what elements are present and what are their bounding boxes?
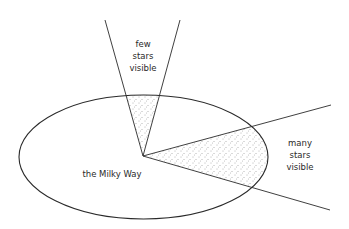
label-line: stars [280, 149, 320, 161]
label-line: visible [123, 62, 163, 74]
label-milky-way: the Milky Way [72, 168, 152, 180]
label-many-stars-visible: many stars visible [280, 137, 320, 173]
label-line: few [123, 38, 163, 50]
label-few-stars-visible: few stars visible [123, 38, 163, 74]
label-line: many [280, 137, 320, 149]
label-line: visible [280, 161, 320, 173]
milky-way-diagram: few stars visible many stars visible the… [0, 0, 349, 229]
galaxy-label-text: the Milky Way [72, 168, 152, 180]
diagram-graphic [0, 0, 349, 229]
label-line: stars [123, 50, 163, 62]
